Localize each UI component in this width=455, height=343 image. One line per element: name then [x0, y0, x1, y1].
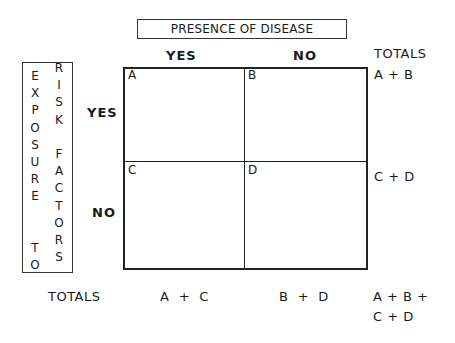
grid-horizontal-divider	[124, 161, 366, 162]
presence-of-disease-title: PRESENCE OF DISEASE	[137, 19, 347, 39]
column-total-no: B + D	[279, 289, 329, 304]
column-totals-label: TOTALS	[48, 289, 101, 304]
column-header-no: NO	[293, 48, 317, 63]
column-total-yes: A + C	[160, 289, 209, 304]
grand-total-line1: A + B +	[373, 289, 429, 304]
row-totals-header: TOTALS	[374, 46, 427, 61]
cell-d-label: D	[248, 163, 257, 177]
cell-a-label: A	[128, 68, 136, 82]
row-total-no: C + D	[374, 169, 415, 184]
grid-vertical-divider	[244, 68, 245, 268]
row-header-no: NO	[92, 205, 116, 220]
contingency-table-grid	[123, 67, 368, 270]
exposure-to-vertical-label: EXPOSURE TO	[28, 68, 42, 274]
row-total-yes: A + B	[374, 67, 413, 82]
cell-c-label: C	[128, 163, 136, 177]
row-header-yes: YES	[87, 105, 118, 120]
cell-b-label: B	[248, 68, 256, 82]
risk-factors-vertical-label: RISK FACTORS	[52, 60, 66, 266]
column-header-yes: YES	[166, 48, 197, 63]
grand-total-line2: C + D	[373, 309, 414, 324]
